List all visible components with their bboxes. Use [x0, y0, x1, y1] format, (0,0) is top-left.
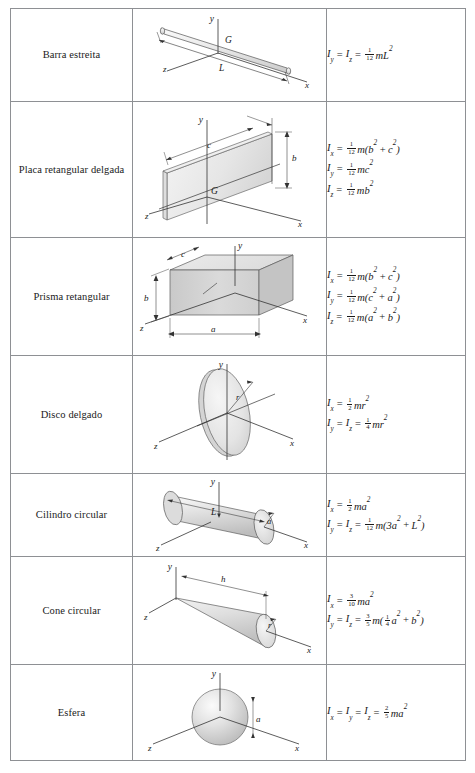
figure-label-y: y: [210, 669, 216, 679]
figure-label-x: x: [302, 315, 307, 325]
formula-cell: Ix= 112 m(b2+c2) Iy= 112 mc2 Iz= 112: [327, 101, 466, 237]
formula-cell: Iy= Iz= 112 mL2: [327, 9, 466, 102]
table-row: Cilindro circular: [11, 473, 466, 557]
figure-cell: y G z L x: [133, 9, 327, 102]
formula-cell: Ix= 12 ma2 Iy= Iz= 112 m(3a2+L2): [327, 473, 466, 557]
figure-label-y: y: [166, 562, 172, 572]
moments-of-inertia-table: Barra estreita: [10, 8, 466, 761]
formula-row: Iy= Iz= 112 mL2: [327, 48, 465, 62]
figure-label-y: y: [208, 14, 214, 24]
body-name-cell: Placa retangular delgada: [11, 101, 133, 237]
body-name-label: Barra estreita: [43, 49, 101, 60]
figure-label-b: b: [292, 153, 297, 163]
formula-row: Ix= 112 m(b2+c2): [327, 269, 465, 283]
body-name-label: Esfera: [58, 707, 85, 718]
formula-row: Iz= 112 mb2: [327, 182, 465, 196]
figure-cell: y a z x: [133, 665, 327, 761]
formula-row: Iy= 112 mc2: [327, 162, 465, 176]
figure-label-x: x: [304, 80, 309, 90]
figure-label-x: x: [289, 438, 294, 448]
table-row: Cone circular: [11, 557, 466, 665]
figure-label-z: z: [143, 612, 148, 622]
figure-label-G: G: [211, 186, 218, 196]
thin-disk-figure: y r z x: [135, 356, 325, 466]
formula-row: Iy= Iz= 14 mr2: [327, 417, 465, 431]
table-row: Disco delgado: [11, 355, 466, 473]
figure-label-z: z: [144, 211, 149, 221]
figure-label-c: c: [181, 249, 185, 259]
figure-label-y: y: [237, 241, 243, 251]
body-name-cell: Cilindro circular: [11, 473, 133, 557]
figure-label-y: y: [209, 477, 215, 487]
figure-label-G: G: [225, 35, 232, 45]
formula-cell: Ix= Iy= Iz= 25 ma2: [327, 665, 466, 761]
thin-rectangular-plate-figure: y c b G z x: [135, 102, 325, 230]
formula-row: Ix= Iy= Iz= 25 ma2: [327, 705, 465, 719]
figure-label-y: y: [217, 360, 223, 370]
figure-label-x: x: [303, 540, 308, 550]
body-name-label: Cone circular: [42, 605, 100, 616]
figure-cell: y L a z x: [133, 473, 327, 557]
body-name-label: Cilindro circular: [36, 509, 107, 520]
rectangular-prism-figure: y c b z a x: [135, 238, 325, 348]
figure-cell: y h z r x: [133, 557, 327, 665]
body-name-label: Disco delgado: [41, 409, 103, 420]
figure-cell: y r z x: [133, 355, 327, 473]
formula-cell: Ix= 12 mr2 Iy= Iz= 14 mr2: [327, 355, 466, 473]
formula-row: Iz= 112 m(a2+b2): [327, 310, 465, 324]
formula-row: Ix= 12 ma2: [327, 498, 465, 512]
table-row: Prisma retangular: [11, 237, 466, 355]
formula-row: Ix= 12 mr2: [327, 397, 465, 411]
figure-label-a: a: [267, 516, 271, 526]
figure-label-z: z: [162, 64, 167, 74]
formula-row: Iy= Iz= 35 m(14a2+b2): [327, 613, 465, 628]
figure-label-L: L: [210, 507, 216, 517]
sphere-figure: y a z x: [135, 665, 325, 757]
figure-label-c: c: [207, 140, 211, 150]
figure-cell: y c b z a x: [133, 237, 327, 355]
body-name-cell: Disco delgado: [11, 355, 133, 473]
formula-row: Ix= 310 ma2: [327, 593, 465, 607]
body-name-label: Prisma retangular: [33, 291, 109, 302]
formula-cell: Ix= 310 ma2 Iy= Iz= 35 m(14a2+b2): [327, 557, 466, 665]
circular-cylinder-figure: y L a z x: [135, 474, 325, 554]
figure-label-h: h: [221, 574, 226, 584]
body-name-cell: Cone circular: [11, 557, 133, 665]
formula-row: Ix= 112 m(b2+c2): [327, 142, 465, 156]
figure-label-x: x: [306, 645, 311, 655]
slender-rod-figure: y G z L x: [135, 9, 325, 97]
figure-label-x: x: [294, 743, 299, 753]
figure-label-z: z: [147, 743, 152, 753]
figure-cell: y c b G z x: [133, 101, 327, 237]
page-root: Barra estreita: [0, 0, 475, 773]
figure-label-b: b: [144, 293, 149, 303]
formula-row: Iy= Iz= 112 m(3a2+L2): [327, 518, 465, 532]
formula-row: Iy= 112 m(c2+a2): [327, 289, 465, 303]
figure-label-a: a: [211, 324, 216, 334]
body-name-cell: Prisma retangular: [11, 237, 133, 355]
table-row: Esfera: [11, 665, 466, 761]
table-row: Placa retangular delgada: [11, 101, 466, 237]
body-name-label: Placa retangular delgada: [19, 164, 125, 175]
table-row: Barra estreita: [11, 9, 466, 102]
figure-label-x: x: [297, 219, 302, 229]
figure-label-z: z: [153, 441, 158, 451]
formula-cell: Ix= 112 m(b2+c2) Iy= 112 m(c2+a2) Iz= 11…: [327, 237, 466, 355]
figure-label-a: a: [256, 714, 261, 724]
figure-label-L: L: [218, 63, 224, 73]
body-name-cell: Esfera: [11, 665, 133, 761]
figure-label-y: y: [197, 115, 203, 125]
figure-label-z: z: [155, 543, 160, 553]
figure-label-z: z: [139, 323, 144, 333]
body-name-cell: Barra estreita: [11, 9, 133, 102]
circular-cone-figure: y h z r x: [135, 557, 325, 657]
